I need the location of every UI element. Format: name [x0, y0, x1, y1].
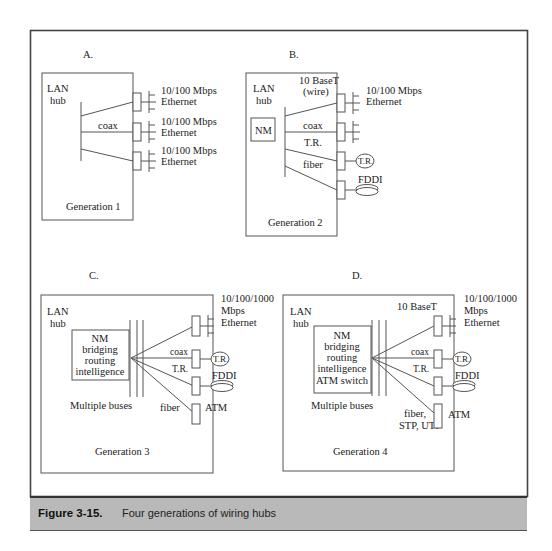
panel-a-port-2-type: Ethernet: [161, 127, 197, 138]
panel-b-hub-label-1: LAN: [253, 83, 275, 94]
figure-caption-bar: Figure 3-15. Four generations of wiring …: [30, 496, 527, 531]
panel-b-media-tr: T.R.: [304, 137, 322, 148]
panel-b-port-1: [337, 94, 345, 112]
panel-a-hub-label-1: LAN: [47, 83, 69, 94]
panel-c-tr-ring-label: T.R.: [213, 354, 228, 364]
panel-c-ethernet-type: Ethernet: [221, 317, 257, 328]
panel-a-generation: Generation 1: [66, 201, 121, 212]
panel-a-coax-label: coax: [98, 120, 119, 131]
panel-d-generation: Generation 4: [333, 446, 388, 457]
panel-b-port-3: [337, 152, 345, 170]
panel-b-media-coax: coax: [303, 120, 324, 131]
panel-d-module-intelligence: intelligence: [318, 363, 367, 374]
panel-b-port-2: [337, 123, 345, 141]
panel-b-nm-label: NM: [255, 125, 273, 136]
panel-c-atm-label: ATM: [205, 402, 228, 413]
panel-c-hub-label-1: LAN: [47, 306, 69, 317]
panel-d-port-atm: [434, 404, 442, 428]
panel-b-hub-label-2: hub: [256, 95, 272, 106]
panel-c-ethernet-speed: 10/100/1000: [221, 293, 274, 304]
panel-d-buses-label: Multiple buses: [311, 400, 373, 411]
panel-c-media-fiber: fiber: [160, 402, 180, 413]
panel-a-port-3: [133, 152, 141, 170]
panel-a-port-2-speed: 10/100 Mbps: [161, 116, 217, 127]
figure-number: Figure 3-15.: [38, 507, 103, 519]
panel-c-module-nm: NM: [92, 333, 110, 344]
panel-c-port-atm: [192, 404, 200, 424]
panel-b-fddi-label: FDDI: [358, 174, 383, 185]
panel-a-port-3-type: Ethernet: [161, 156, 197, 167]
panel-d-port-tr: [434, 350, 442, 368]
panel-d-media-tr: T.R.: [413, 364, 429, 374]
panel-d-module-routing: routing: [327, 352, 358, 363]
panel-c-module-bridging: bridging: [82, 344, 118, 355]
panel-d-fddi-ring-icon: [453, 381, 475, 392]
panel-b-tr-ring-label: T.R.: [358, 156, 373, 166]
panel-b-media-10baset: 10 BaseT: [299, 75, 340, 86]
panel-a-port-3-speed: 10/100 Mbps: [161, 145, 217, 156]
panel-c-fddi-label: FDDI: [212, 370, 237, 381]
panel-d-port-fddi: [434, 377, 442, 395]
panel-c-port-ethernet: [192, 316, 200, 336]
panel-b-media-wire: (wire): [303, 86, 329, 98]
panel-a-port-2: [133, 123, 141, 141]
panel-a-hub-label-2: hub: [50, 95, 66, 106]
panel-c-port-fddi: [192, 377, 200, 395]
panel-c-module-routing: routing: [85, 355, 116, 366]
panel-c-module-intelligence: intelligence: [76, 366, 125, 377]
panel-a-port-1: [133, 93, 141, 111]
panel-c-buses-label: Multiple buses: [70, 400, 132, 411]
panel-d-letter: D.: [352, 270, 362, 281]
panel-c-ethernet-unit: Mbps: [221, 305, 245, 316]
panel-d-media-fiber: fiber,: [404, 408, 426, 419]
panel-c-media-tr: T.R.: [172, 364, 188, 374]
panel-d-ethernet-unit: Mbps: [464, 305, 488, 316]
wiring-hubs-diagram: A. LAN hub coax: [0, 0, 552, 551]
panel-c-letter: C.: [89, 270, 99, 281]
panel-b-port-4: [337, 181, 345, 199]
panel-a-letter: A.: [83, 49, 93, 60]
figure-caption: Four generations of wiring hubs: [122, 507, 276, 519]
panel-d-tr-ring-label: T.R.: [455, 354, 470, 364]
panel-c-fddi-ring-icon: [211, 381, 233, 392]
panel-b-media-fiber: fiber: [303, 159, 323, 170]
panel-c-hub-label-2: hub: [50, 318, 66, 329]
panel-d-module-atm-switch: ATM switch: [316, 375, 369, 386]
panel-c-generation: Generation 3: [95, 446, 150, 457]
panel-b-generation: Generation 2: [268, 217, 323, 228]
panel-d-module-bridging: bridging: [324, 341, 360, 352]
panel-d-ethernet-speed: 10/100/1000: [464, 293, 517, 304]
panel-d-ethernet-type: Ethernet: [464, 317, 500, 328]
panel-d-fddi-label: FDDI: [455, 370, 480, 381]
panel-d-media-10baset: 10 BaseT: [397, 301, 438, 312]
panel-a-port-1-type: Ethernet: [161, 96, 197, 107]
panel-b-letter: B.: [289, 49, 299, 60]
panel-c-media-coax: coax: [170, 347, 188, 357]
panel-d-module-nm: NM: [334, 330, 352, 341]
panel-a-port-1-speed: 10/100 Mbps: [161, 85, 217, 96]
panel-d-hub-label-1: LAN: [290, 306, 312, 317]
panel-d-hub-label-2: hub: [293, 318, 309, 329]
panel-b-fddi-ring-icon: [356, 185, 378, 196]
panel-d-media-coax: coax: [411, 347, 429, 357]
panel-d-port-ethernet: [434, 316, 442, 336]
panel-b-ethernet-type: Ethernet: [366, 96, 402, 107]
panel-b-ethernet-speed: 10/100 Mbps: [366, 85, 422, 96]
panel-d-atm-label: ATM: [448, 409, 471, 420]
panel-c-port-tr: [192, 350, 200, 368]
